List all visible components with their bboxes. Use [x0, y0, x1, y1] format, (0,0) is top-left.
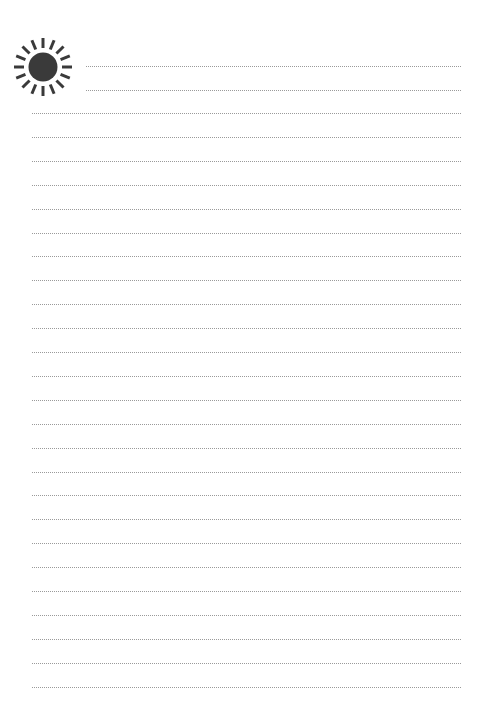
writing-line: [32, 352, 461, 353]
writing-line: [86, 66, 461, 67]
writing-line: [32, 376, 461, 377]
writing-line: [32, 472, 461, 473]
writing-line: [32, 113, 461, 114]
writing-line: [32, 567, 461, 568]
writing-line: [32, 185, 461, 186]
writing-line: [32, 663, 461, 664]
writing-line: [32, 209, 461, 210]
writing-line: [32, 495, 461, 496]
writing-line: [32, 161, 461, 162]
writing-line: [32, 519, 461, 520]
writing-line: [32, 280, 461, 281]
writing-line: [86, 90, 461, 91]
writing-line: [32, 256, 461, 257]
writing-line: [32, 448, 461, 449]
writing-line: [32, 687, 461, 688]
writing-line: [32, 233, 461, 234]
writing-line: [32, 591, 461, 592]
writing-line: [32, 304, 461, 305]
sun-icon: [12, 36, 74, 98]
writing-line: [32, 639, 461, 640]
writing-line: [32, 400, 461, 401]
writing-line: [32, 137, 461, 138]
writing-line: [32, 328, 461, 329]
writing-line: [32, 615, 461, 616]
writing-line: [32, 424, 461, 425]
writing-line: [32, 543, 461, 544]
